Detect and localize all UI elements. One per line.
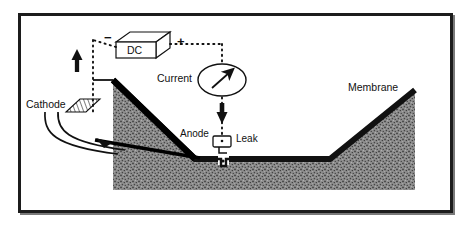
positive-terminal-label: + [177,35,185,48]
leak-label: Leak [236,133,258,144]
leak-point [216,153,231,166]
figure-canvas: DC − + Current Cathode Anode Leak Membra… [0,0,465,227]
current-to-anode-arrow [217,103,228,124]
membrane-label: Membrane [348,81,398,93]
current-label: Current [157,72,192,84]
dc-supply-label: DC [127,44,142,56]
anode-label: Anode [180,128,209,139]
cathode-return-arrow [72,49,83,72]
cathode-label: Cathode [26,98,66,110]
current-meter [198,64,246,96]
soil-body [113,80,415,190]
negative-terminal-label: − [104,31,112,44]
dc-power-supply [116,32,170,58]
cathode-electrode [66,99,100,112]
anode-electrode [213,136,231,153]
diagram-graphics [0,0,465,227]
